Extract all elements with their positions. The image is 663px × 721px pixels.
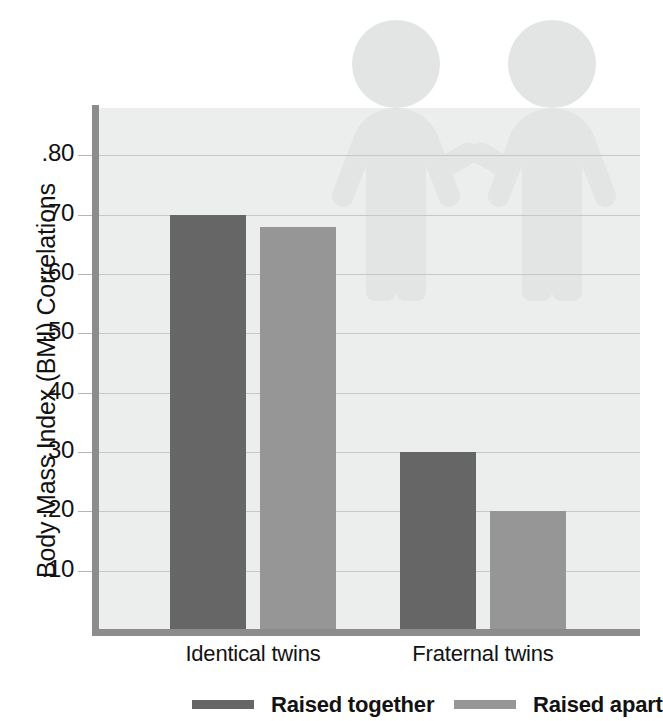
y-axis-line: [92, 105, 99, 636]
legend-label: Raised together: [271, 692, 434, 718]
y-axis-tick-label: .70: [0, 199, 74, 227]
y-axis-tick-label: .80: [0, 139, 74, 167]
y-axis-tick-label: .60: [0, 258, 74, 286]
bar: [400, 452, 476, 630]
x-axis-tick-label: Fraternal twins: [353, 641, 613, 667]
bars-layer: [98, 108, 640, 630]
chart-legend: Raised togetherRaised apart: [0, 688, 647, 721]
x-axis-line: [92, 629, 640, 636]
bar: [260, 227, 336, 630]
y-axis-tick-label: .50: [0, 317, 74, 345]
x-axis-tick-label: Identical twins: [123, 641, 383, 667]
bar: [170, 215, 246, 630]
bar: [490, 511, 566, 630]
legend-item: Raised apart: [454, 688, 663, 721]
y-axis-tick-label: .30: [0, 436, 74, 464]
legend-label: Raised apart: [533, 692, 663, 718]
y-axis-tick-label: .40: [0, 377, 74, 405]
y-axis-tick-label: .20: [0, 495, 74, 523]
legend-swatch: [454, 700, 516, 709]
legend-item: Raised together: [192, 688, 434, 721]
y-axis-tick-label: .10: [0, 555, 74, 583]
legend-swatch: [192, 700, 254, 709]
